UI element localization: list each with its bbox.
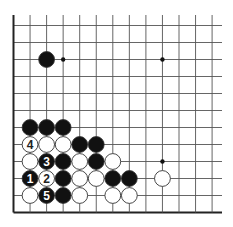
stone (88, 171, 104, 187)
stone (72, 188, 88, 204)
black-stone (72, 137, 88, 153)
black-stone (39, 120, 55, 136)
stone (155, 171, 171, 187)
white-stone (72, 154, 88, 170)
stone (55, 154, 71, 170)
go-board: 43125 (0, 0, 233, 227)
white-stone (105, 154, 121, 170)
stone (121, 188, 137, 204)
white-stone-move-4: 4 (22, 137, 38, 153)
move-number-label: 3 (43, 155, 50, 169)
black-stone (55, 171, 71, 187)
stone (55, 171, 71, 187)
stone (39, 120, 55, 136)
star-point (160, 57, 164, 61)
stone (88, 137, 104, 153)
black-stone (55, 154, 71, 170)
stone (88, 154, 104, 170)
black-stone-move-3: 3 (39, 154, 55, 170)
move-number-label: 2 (43, 172, 50, 186)
stone (72, 154, 88, 170)
star-point (160, 159, 164, 163)
stone (55, 120, 71, 136)
move-number-label: 5 (43, 189, 50, 203)
white-stone (39, 137, 55, 153)
move-number-label: 1 (27, 172, 34, 186)
stone (22, 120, 38, 136)
white-stone-move-2: 2 (39, 171, 55, 187)
white-stone (155, 171, 171, 187)
stone (39, 52, 55, 68)
black-stone-move-5: 5 (39, 188, 55, 204)
stone (121, 171, 137, 187)
white-stone (22, 154, 38, 170)
stone (55, 137, 71, 153)
stone (55, 188, 71, 204)
black-stone (88, 154, 104, 170)
move-number-label: 4 (27, 138, 34, 152)
black-stone (105, 171, 121, 187)
white-stone (55, 137, 71, 153)
black-stone (55, 188, 71, 204)
stone (105, 171, 121, 187)
stone (72, 171, 88, 187)
stone (39, 137, 55, 153)
stone (105, 154, 121, 170)
black-stone (55, 120, 71, 136)
stone (22, 188, 38, 204)
white-stone (105, 188, 121, 204)
white-stone (72, 188, 88, 204)
black-stone (39, 52, 55, 68)
black-stone (88, 137, 104, 153)
stone (72, 137, 88, 153)
black-stone-move-1: 1 (22, 171, 38, 187)
white-stone (121, 188, 137, 204)
white-stone (88, 171, 104, 187)
black-stone (121, 171, 137, 187)
star-point (61, 57, 65, 61)
stone (22, 154, 38, 170)
stone (105, 188, 121, 204)
white-stone (22, 188, 38, 204)
white-stone (72, 171, 88, 187)
black-stone (22, 120, 38, 136)
